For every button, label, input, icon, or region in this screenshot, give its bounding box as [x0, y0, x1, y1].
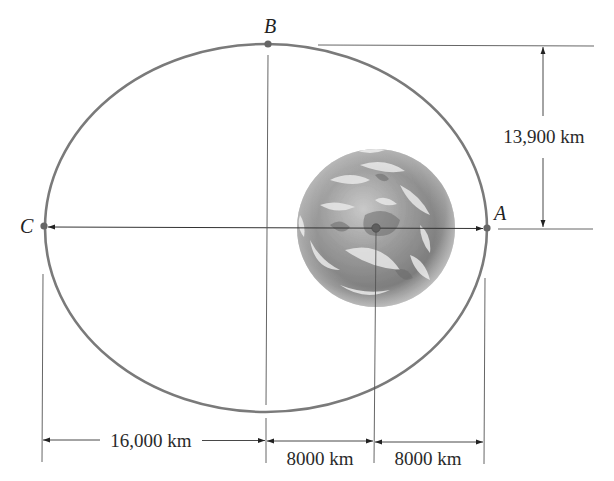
left-dim-label: 16,000 km [110, 430, 192, 451]
minor-axis-line [266, 55, 268, 405]
middle-dim-label: 8000 km [286, 448, 353, 469]
point-c-label: C [20, 215, 34, 237]
right-extension-line [484, 278, 485, 464]
point-a-label: A [492, 202, 507, 224]
point-c-dot [40, 222, 47, 229]
top-extension-line [318, 45, 594, 46]
orbit-diagram: 13,900 km 16,000 km 8000 km 8000 km A B … [0, 0, 614, 481]
earth-center-dot [372, 224, 380, 232]
left-extension-line [42, 274, 43, 462]
right-dim-label: 8000 km [394, 448, 461, 469]
point-b-label: B [264, 15, 276, 37]
point-a-dot [483, 224, 490, 231]
point-b-dot [264, 40, 271, 47]
semi-minor-dim-label: 13,900 km [503, 126, 585, 147]
